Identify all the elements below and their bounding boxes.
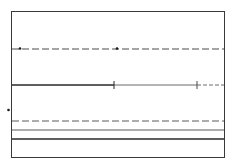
line-diagram [0, 0, 233, 165]
outside-dot-marker [7, 109, 10, 112]
dot-marker [19, 47, 22, 50]
segmented-line [12, 81, 224, 89]
dot-marker [116, 47, 119, 50]
dash-dot-line [12, 47, 224, 50]
